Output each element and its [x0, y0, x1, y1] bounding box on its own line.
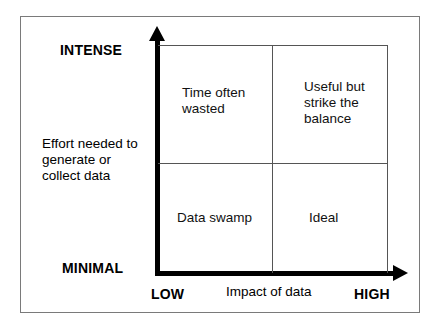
x-axis-low-label: LOW: [151, 286, 184, 302]
y-axis-title: Effort needed to generate or collect dat…: [42, 136, 157, 184]
x-axis-arrowhead-icon: [393, 265, 408, 281]
grid-divider-horizontal: [158, 163, 388, 164]
quadrant-top-left-line-1: Time often: [182, 85, 278, 101]
y-axis-title-line-3: collect data: [42, 168, 157, 184]
y-axis-arrowhead-icon: [149, 26, 165, 41]
x-axis-high-label: HIGH: [354, 286, 390, 302]
quadrant-top-right-line-3: balance: [304, 111, 402, 127]
x-axis-title: Impact of data: [226, 284, 312, 299]
quadrant-top-right: Useful but strike the balance: [304, 79, 402, 127]
quadrant-top-left: Time often wasted: [182, 85, 278, 117]
y-axis-title-line-2: generate or: [42, 152, 157, 168]
quadrant-top-right-line-1: Useful but: [304, 79, 402, 95]
y-axis-low-label: MINIMAL: [62, 260, 123, 276]
quadrant-top-left-line-2: wasted: [182, 101, 278, 117]
y-axis-high-label: INTENSE: [60, 42, 122, 58]
quadrant-matrix-figure: Time often wasted Useful but strike the …: [0, 0, 440, 330]
y-axis-title-line-1: Effort needed to: [42, 136, 157, 152]
quadrant-bottom-right-line-1: Ideal: [309, 210, 389, 226]
quadrant-bottom-left: Data swamp: [177, 210, 277, 226]
quadrant-top-right-line-2: strike the: [304, 95, 402, 111]
grid-border-top: [158, 45, 388, 46]
quadrant-bottom-right: Ideal: [309, 210, 389, 226]
quadrant-bottom-left-line-1: Data swamp: [177, 210, 277, 226]
grid-divider-vertical: [272, 45, 273, 273]
